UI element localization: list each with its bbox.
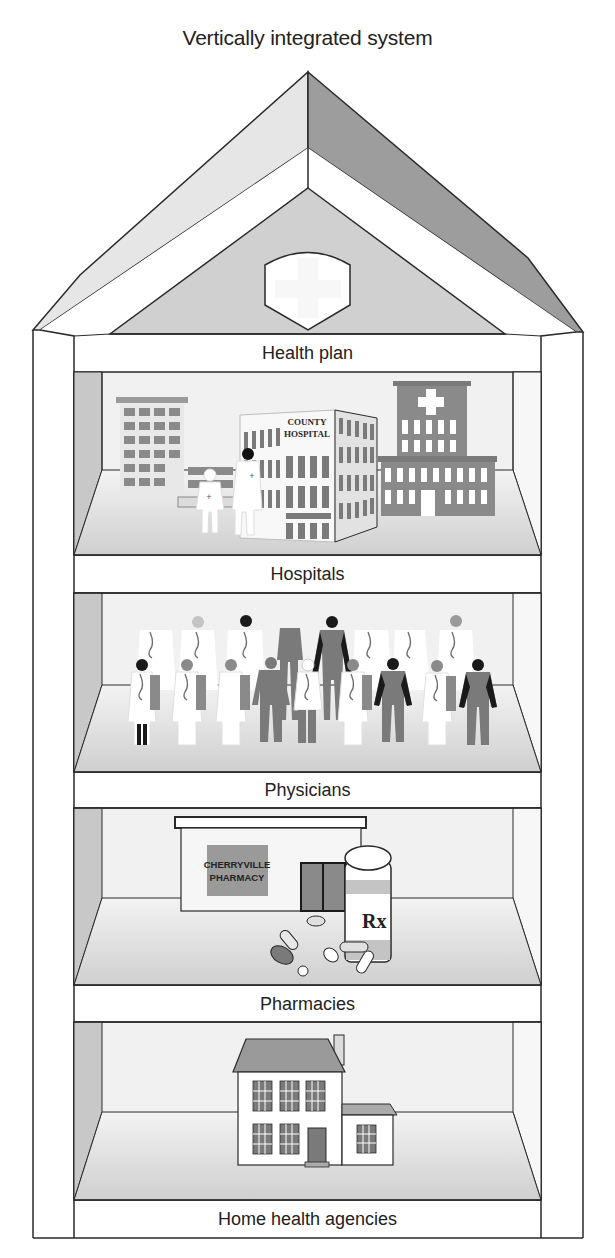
floor-label-physicians: Physicians bbox=[74, 780, 541, 801]
svg-text:+: + bbox=[206, 492, 211, 502]
county-sign-line2: HOSPITAL bbox=[284, 429, 330, 439]
house-diagram: COUNTY HOSPITAL bbox=[0, 0, 615, 1258]
floor-label-health-plan: Health plan bbox=[74, 343, 541, 364]
rx-label: Rx bbox=[362, 910, 386, 932]
room-home-health bbox=[74, 1022, 541, 1200]
pharmacy-storefront: CHERRYVILLE PHARMACY bbox=[175, 817, 366, 911]
county-hospital-building: COUNTY HOSPITAL bbox=[240, 410, 377, 542]
floor-label-hospitals: Hospitals bbox=[74, 564, 541, 585]
floor-label-home-health: Home health agencies bbox=[74, 1209, 541, 1230]
svg-text:+: + bbox=[249, 471, 254, 481]
room-hospitals: COUNTY HOSPITAL bbox=[74, 372, 541, 555]
room-physicians bbox=[74, 593, 541, 772]
county-sign-line1: COUNTY bbox=[287, 417, 327, 427]
roof bbox=[33, 72, 583, 372]
room-pharmacies: CHERRYVILLE PHARMACY Rx bbox=[74, 808, 541, 985]
pharmacy-sign-line1: CHERRYVILLE bbox=[204, 859, 271, 870]
pharmacy-sign-line2: PHARMACY bbox=[210, 872, 266, 883]
floor-label-pharmacies: Pharmacies bbox=[74, 994, 541, 1015]
